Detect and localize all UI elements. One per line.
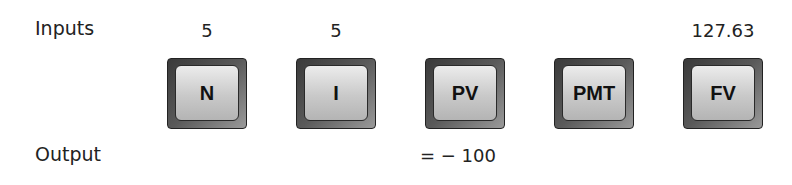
- i-key-label: I: [304, 65, 368, 121]
- n-input-value: 5: [166, 20, 248, 41]
- n-key-label: N: [175, 65, 239, 121]
- pmt-key-label: PMT: [562, 65, 626, 121]
- i-key[interactable]: I: [296, 58, 376, 129]
- i-input-value: 5: [295, 20, 377, 41]
- pmt-key[interactable]: PMT: [554, 58, 634, 129]
- fv-key-label: FV: [691, 65, 755, 121]
- pv-key-label: PV: [433, 65, 497, 121]
- pv-output-value: = − 100: [420, 145, 520, 166]
- fv-key[interactable]: FV: [683, 58, 763, 129]
- output-label: Output: [35, 143, 101, 165]
- n-key[interactable]: N: [167, 58, 247, 129]
- fv-input-value: 127.63: [682, 20, 764, 41]
- pv-key[interactable]: PV: [425, 58, 505, 129]
- inputs-label: Inputs: [35, 17, 94, 39]
